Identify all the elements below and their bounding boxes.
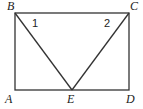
segment-be — [15, 13, 72, 90]
point-label-c: C — [130, 0, 139, 13]
point-label-d: D — [125, 92, 135, 106]
angle-label-1: 1 — [32, 17, 38, 29]
point-label-a: A — [4, 92, 13, 106]
geometry-diagram: B C A E D 1 2 — [0, 0, 143, 109]
angle-label-2: 2 — [104, 17, 110, 29]
point-label-e: E — [66, 92, 75, 106]
segment-ce — [72, 13, 129, 90]
point-label-b: B — [7, 0, 15, 13]
